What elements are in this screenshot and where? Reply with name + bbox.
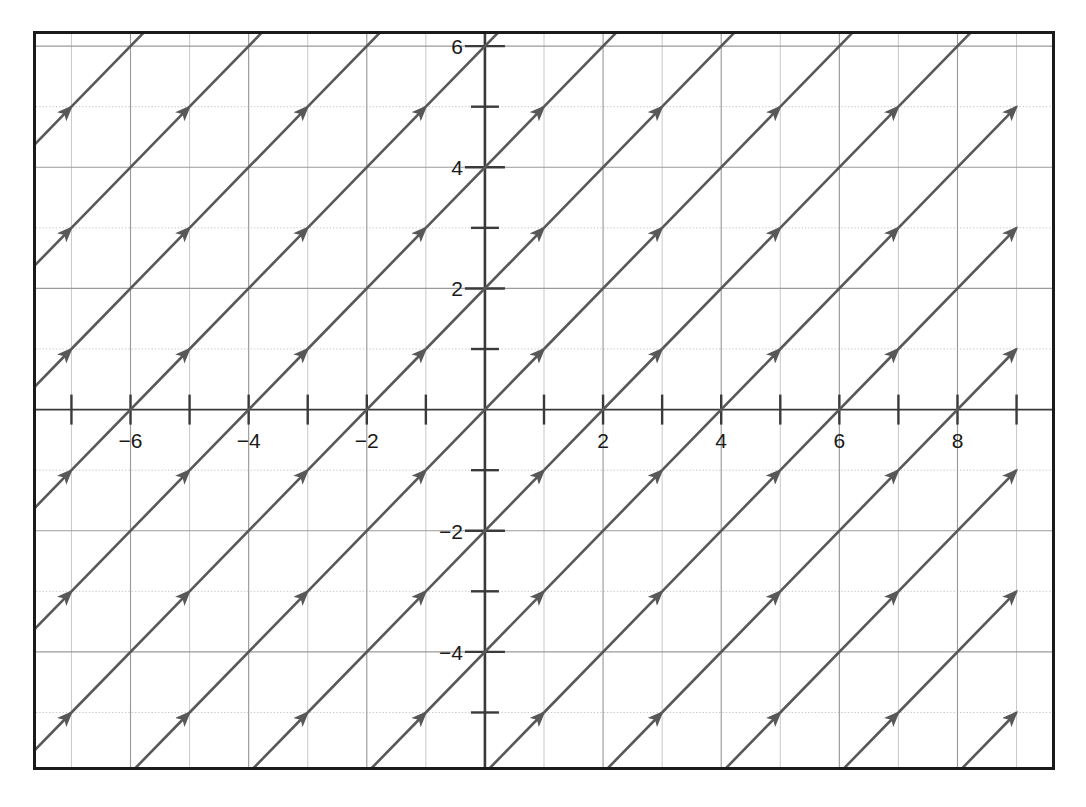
y-tick-label: 4 xyxy=(451,157,463,178)
x-tick-label: 8 xyxy=(952,430,964,451)
slope-field-figure: −6−4−22468642−2−4 xyxy=(0,0,1086,807)
direction-field-arrows xyxy=(36,34,1017,767)
y-tick-label: −2 xyxy=(439,520,463,541)
y-tick-label: −4 xyxy=(439,641,463,662)
plot-frame: −6−4−22468642−2−4 xyxy=(33,31,1055,770)
x-tick-label: −6 xyxy=(119,430,143,451)
plot-canvas xyxy=(36,34,1052,767)
x-tick-label: 4 xyxy=(715,430,727,451)
y-tick-label: 6 xyxy=(451,36,463,57)
x-tick-label: −2 xyxy=(355,430,379,451)
y-tick-label: 2 xyxy=(451,278,463,299)
x-tick-label: 6 xyxy=(833,430,845,451)
x-tick-label: 2 xyxy=(597,430,609,451)
direction-arrow xyxy=(36,712,71,767)
x-tick-label: −4 xyxy=(237,430,261,451)
direction-arrow xyxy=(36,34,71,107)
